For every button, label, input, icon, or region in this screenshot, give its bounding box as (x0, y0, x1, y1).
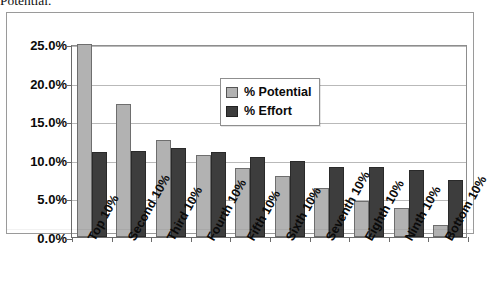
y-axis-tick (66, 46, 72, 47)
legend-swatch-effort-icon (226, 106, 238, 117)
y-axis-tick (66, 123, 72, 124)
gridline (72, 46, 466, 47)
scan-artifact (7, 229, 473, 230)
chart-frame: 0.0%5.0%10.0%15.0%20.0%25.0% % Potential… (6, 12, 474, 234)
y-axis-tick (66, 85, 72, 86)
y-axis-tick-label: 20.0% (9, 77, 67, 90)
y-axis-tick-label: 5.0% (9, 193, 67, 206)
y-axis-tick-label: 0.0% (9, 232, 67, 245)
y-axis-tick (66, 200, 72, 201)
chart-legend: % Potential % Effort (220, 78, 320, 126)
x-axis-tick (468, 237, 469, 242)
legend-item-effort: % Effort (226, 102, 311, 121)
bar-potential (77, 44, 92, 237)
x-axis-category-labels: Top 10%Second 10%Third 10%Fourth 10%Fift… (64, 237, 460, 308)
legend-label-potential: % Potential (244, 86, 311, 99)
y-axis-tick (66, 162, 72, 163)
y-axis-tick-label: 15.0% (9, 116, 67, 129)
bar-potential (116, 104, 131, 237)
legend-label-effort: % Effort (244, 105, 292, 118)
y-axis-tick-labels: 0.0%5.0%10.0%15.0%20.0%25.0% (7, 13, 67, 253)
figure-caption-clipped: Potential. (0, 0, 200, 11)
legend-item-potential: % Potential (226, 83, 311, 102)
figure-caption-text: Potential. (0, 0, 200, 11)
legend-swatch-potential-icon (226, 87, 238, 98)
y-axis-tick-label: 10.0% (9, 154, 67, 167)
y-axis-tick-label: 25.0% (9, 39, 67, 52)
